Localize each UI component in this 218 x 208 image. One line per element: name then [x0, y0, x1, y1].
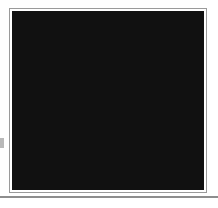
- quilt-frame: [9, 8, 207, 193]
- edge-artifact-tick: [0, 138, 4, 148]
- quilt-block-grid: [12, 11, 204, 190]
- baseline-rule: [0, 196, 218, 198]
- quilt-figure: [0, 0, 218, 208]
